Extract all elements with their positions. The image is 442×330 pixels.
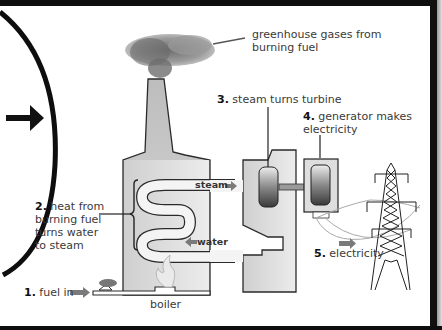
steam-label: steam (195, 179, 228, 190)
step4-number: 4. (303, 110, 315, 123)
step1-number: 1. (24, 286, 36, 299)
step1-label: 1. fuel in (24, 286, 74, 299)
step2-line1: heat from (50, 200, 104, 213)
water-label: water (197, 236, 228, 247)
step4-line2: electricity (303, 123, 412, 136)
right-arrow-icon (6, 105, 44, 131)
greenhouse-line1: greenhouse gases from (252, 28, 382, 41)
step3-number: 3. (217, 93, 229, 106)
step3-text: steam turns turbine (232, 93, 341, 106)
greenhouse-gases-label: greenhouse gases from burning fuel (252, 28, 382, 54)
step5-text: electricity (329, 247, 383, 260)
generator-icon (304, 135, 338, 218)
step2-line2: burning fuel (35, 213, 104, 226)
power-plant-diagram: greenhouse gases from burning fuel 3. st… (0, 0, 442, 330)
step2-line3: turns water (35, 226, 104, 239)
step2-line4: to steam (35, 239, 104, 252)
step1-text: fuel in (39, 286, 73, 299)
step2-number: 2. (35, 200, 47, 213)
step5-number: 5. (314, 247, 326, 260)
step2-label: 2. heat from burning fuel turns water to… (35, 200, 104, 252)
boiler-label: boiler (150, 298, 181, 311)
greenhouse-line2: burning fuel (252, 41, 382, 54)
step5-label: 5. electricity (314, 247, 384, 260)
step4-label: 4. generator makes electricity (303, 110, 412, 136)
smoke-cloud-icon (125, 34, 245, 78)
turbine-house (210, 150, 296, 292)
step4-line1: generator makes (318, 110, 412, 123)
step3-label: 3. steam turns turbine (217, 93, 342, 106)
transmission-tower-icon (367, 163, 416, 290)
